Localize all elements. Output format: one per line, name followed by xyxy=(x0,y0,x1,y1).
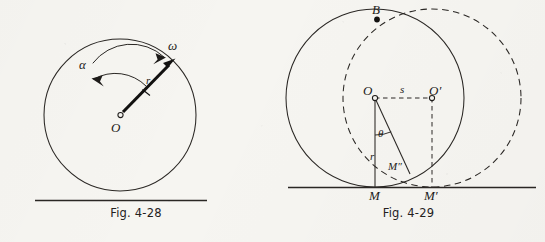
angle-label-theta: θ xyxy=(378,127,383,139)
angular-velocity-label: ω xyxy=(168,38,177,54)
figure-4-29: B O O′ s θ r M M′ M″ Fig. 4-29 xyxy=(272,0,545,242)
center-label-O: O xyxy=(111,120,120,136)
radius-label-r: r xyxy=(370,150,374,162)
figure-4-28: O r ω α Fig. 4-28 xyxy=(0,0,272,242)
angular-acceleration-arrowhead xyxy=(92,76,104,87)
point-label-B: B xyxy=(372,2,380,18)
center-label-O: O xyxy=(363,83,372,99)
trace-point-label-M-double-prime: M″ xyxy=(388,160,402,172)
figure-4-29-caption: Fig. 4-29 xyxy=(272,206,545,220)
contact-label-M: M xyxy=(369,188,380,204)
center-point-marker xyxy=(118,112,123,117)
radius-arrow-shaft xyxy=(123,65,169,112)
angular-velocity-arrowhead xyxy=(153,53,166,64)
center-O-marker xyxy=(372,95,377,100)
radius-label-r: r xyxy=(146,74,150,86)
center-label-O-prime: O′ xyxy=(429,83,441,99)
figure-page: O r ω α Fig. 4-28 xyxy=(0,0,545,242)
displacement-label-s: s xyxy=(400,83,404,95)
angular-acceleration-label: α xyxy=(79,57,86,73)
figure-4-28-caption: Fig. 4-28 xyxy=(0,206,272,220)
contact-label-M-prime: M′ xyxy=(424,188,438,204)
